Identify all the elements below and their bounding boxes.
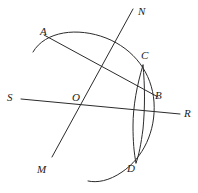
point-label-A: A xyxy=(40,26,47,37)
line-nm xyxy=(52,9,133,157)
point-label-D: D xyxy=(127,163,135,174)
point-label-S: S xyxy=(7,92,13,103)
point-label-B: B xyxy=(155,90,162,101)
point-label-M: M xyxy=(37,164,46,175)
point-label-N: N xyxy=(138,6,145,17)
point-label-C: C xyxy=(141,50,148,61)
arc-cd xyxy=(133,65,143,163)
line-ab xyxy=(44,35,158,97)
arc-major xyxy=(33,32,154,182)
line-sr xyxy=(21,99,180,114)
geometry-figure: A N C S O B R M D xyxy=(0,0,198,193)
point-label-O: O xyxy=(72,92,80,103)
figure-canvas xyxy=(0,0,198,193)
point-label-R: R xyxy=(184,108,191,119)
